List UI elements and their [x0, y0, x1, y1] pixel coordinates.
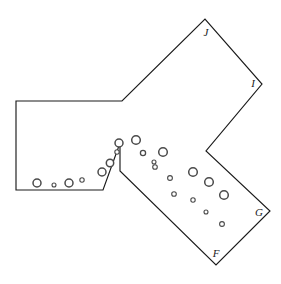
data-point-marker: [132, 136, 141, 145]
vertex-label-g: G: [255, 206, 263, 218]
figure-canvas: JIGF: [0, 0, 281, 284]
data-point-marker: [220, 222, 225, 227]
data-point-marker: [153, 165, 158, 170]
region-boundary-polygon: [16, 19, 270, 265]
data-point-marker: [152, 160, 156, 164]
data-point-marker: [191, 198, 195, 202]
data-point-marker: [205, 178, 214, 187]
data-point-marker: [220, 191, 229, 200]
vertex-label-f: F: [212, 247, 220, 259]
data-point-marker: [115, 139, 123, 147]
data-point-marker: [80, 178, 84, 182]
data-point-marker: [115, 150, 119, 154]
data-point-marker: [172, 192, 177, 197]
data-point-marker: [189, 168, 198, 177]
data-point-marker: [204, 210, 208, 214]
data-point-marker: [98, 168, 106, 176]
data-point-marker: [65, 179, 73, 187]
data-point-marker: [33, 179, 41, 187]
data-point-marker: [140, 150, 145, 155]
polygon-diagram: JIGF: [0, 0, 281, 284]
data-point-marker: [106, 159, 113, 166]
data-point-marker: [168, 176, 173, 181]
data-point-marker: [52, 183, 56, 187]
data-point-marker: [159, 148, 168, 157]
